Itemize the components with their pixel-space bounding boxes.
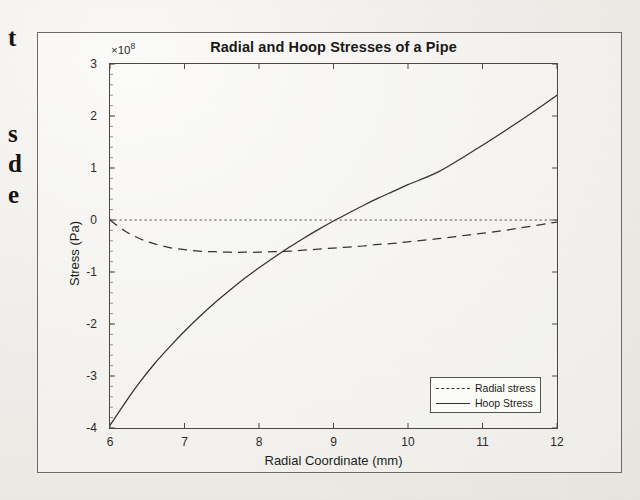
exponent-mantissa: ×10 [111, 44, 131, 56]
legend-label-hoop-stress: Hoop Stress [475, 397, 533, 409]
y-tick-label-2: 2 [71, 109, 97, 123]
y-tick-label--2: -2 [71, 317, 97, 331]
series-hoop-stress [110, 95, 557, 425]
legend-swatch-dashed [436, 388, 470, 389]
legend-swatch-solid [436, 403, 470, 404]
y-axis-exponent-label: ×108 [111, 41, 135, 56]
x-tick-label-9: 9 [321, 435, 347, 449]
x-axis-label: Radial Coordinate (mm) [109, 453, 558, 468]
x-tick-label-10: 10 [395, 435, 421, 449]
y-tick-label-1: 1 [71, 161, 97, 175]
document-text-fragment-0: t [8, 24, 16, 52]
document-text-fragment-3: e [8, 181, 19, 209]
x-tick-label-8: 8 [246, 435, 272, 449]
x-tick-label-12: 12 [544, 435, 570, 449]
y-tick-label--1: -1 [71, 265, 97, 279]
x-tick-label-11: 11 [470, 435, 496, 449]
chart-title: Radial and Hoop Stresses of a Pipe [109, 39, 558, 55]
y-tick-label--3: -3 [71, 369, 97, 383]
y-tick-label-0: 0 [71, 213, 97, 227]
document-text-fragment-1: s [8, 120, 18, 148]
x-tick-label-7: 7 [172, 435, 198, 449]
y-tick-label-3: 3 [71, 57, 97, 71]
legend-item-hoop-stress: Hoop Stress [436, 396, 537, 410]
document-text-fragment-2: d [8, 150, 22, 178]
series-radial-stress [110, 220, 557, 252]
plot-axes-box [109, 63, 558, 429]
figure-container: Radial and Hoop Stresses of a Pipe ×108 … [37, 32, 622, 473]
legend-label-radial-stress: Radial stress [475, 382, 536, 394]
chart-legend: Radial stress Hoop Stress [430, 377, 541, 413]
y-axis-label: Stress (Pa) [67, 184, 82, 324]
legend-item-radial-stress: Radial stress [436, 381, 537, 395]
y-tick-label--4: -4 [71, 421, 97, 435]
x-tick-label-6: 6 [97, 435, 123, 449]
plot-canvas [110, 64, 557, 428]
exponent-power: 8 [131, 41, 136, 51]
